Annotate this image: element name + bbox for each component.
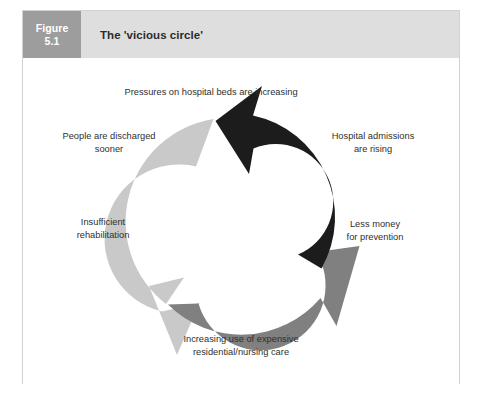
- figure-number-line1: Figure: [36, 22, 69, 35]
- figure-title: The 'vicious circle': [100, 29, 203, 41]
- cycle-label-pressures: Pressures on hospital beds are increasin…: [91, 86, 331, 99]
- figure-number-badge: Figure 5.1: [23, 11, 81, 58]
- figure-number-line2: 5.1: [45, 35, 60, 48]
- figure-body: Pressures on hospital beds are increasin…: [23, 58, 459, 384]
- cycle-label-prevention: Less money for prevention: [313, 218, 437, 243]
- cycle-label-residential-care: Increasing use of expensive residential/…: [131, 333, 351, 358]
- cycle-label-rehabilitation: Insufficient rehabilitation: [41, 216, 165, 241]
- cycle-label-admissions: Hospital admissions are rising: [307, 130, 439, 155]
- figure-title-container: The 'vicious circle': [81, 11, 459, 58]
- cycle-label-discharged: People are discharged sooner: [41, 130, 177, 155]
- figure-header: Figure 5.1 The 'vicious circle': [23, 11, 459, 58]
- figure-card: Figure 5.1 The 'vicious circle' Pressure…: [22, 10, 460, 384]
